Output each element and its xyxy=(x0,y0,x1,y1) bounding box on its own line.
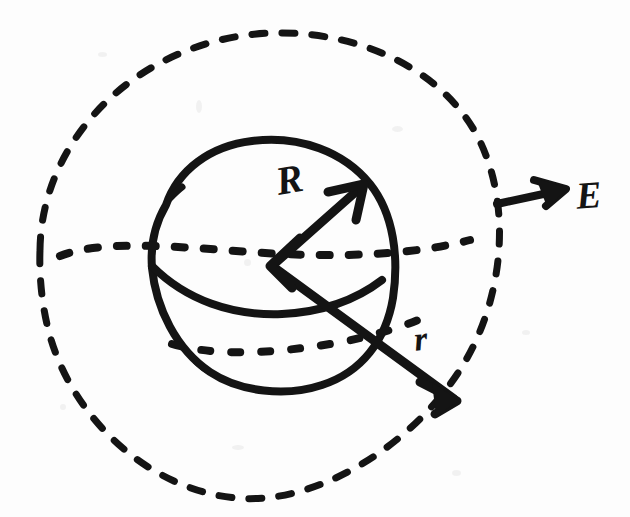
diagram-canvas xyxy=(0,0,630,517)
lower-latitude-dotted-ellipse xyxy=(172,314,432,352)
diagram-page: R r E xyxy=(0,0,630,517)
label-field-E: E xyxy=(575,175,603,215)
field-E-arrow xyxy=(497,178,568,207)
equator-back-dotted-ellipse xyxy=(60,240,470,256)
equator-front-solid-curve xyxy=(152,266,382,314)
